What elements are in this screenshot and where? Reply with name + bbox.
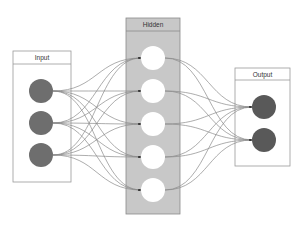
- hidden-node-2: [141, 79, 165, 103]
- neural-network-diagram: Input Hidden Output: [0, 0, 302, 227]
- input-node-3: [29, 143, 53, 167]
- input-node-1: [29, 79, 53, 103]
- hidden-node-3: [141, 112, 165, 136]
- output-node-1: [252, 95, 276, 119]
- input-node-2: [29, 111, 53, 135]
- hidden-node-1: [141, 46, 165, 70]
- output-layer-title: Output: [253, 71, 273, 79]
- hidden-node-4: [141, 145, 165, 169]
- output-node-2: [252, 128, 276, 152]
- hidden-node-5: [141, 178, 165, 202]
- hidden-layer-title: Hidden: [143, 21, 164, 28]
- input-layer-title: Input: [35, 54, 50, 62]
